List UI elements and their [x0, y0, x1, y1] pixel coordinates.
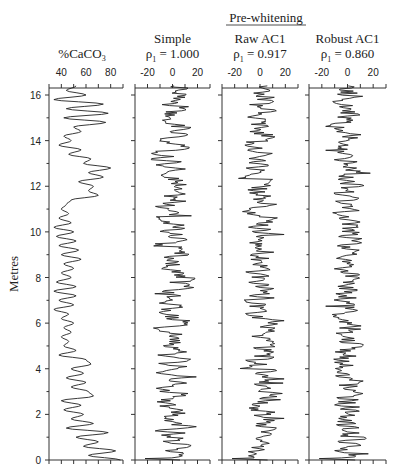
- panel-subtitle: ρ1 = 0.860: [321, 46, 375, 64]
- y-tick-label: 6: [35, 318, 41, 329]
- y-tick-label: 10: [30, 227, 42, 238]
- y-axis-label: Metres: [6, 256, 21, 292]
- y-tick-label: 2: [35, 409, 41, 420]
- group-title: Pre-whitening: [229, 10, 303, 25]
- panel-title: Simple: [154, 31, 191, 46]
- series-line: [319, 86, 370, 460]
- panel-subtitle: ρ1 = 1.000: [146, 46, 200, 64]
- y-tick-label: 12: [30, 181, 42, 192]
- chart-canvas: Pre-whiteningMetres0246810121416%CaCO340…: [0, 0, 403, 475]
- y-tick-label: 14: [30, 136, 42, 147]
- x-tick-label: 40: [56, 67, 68, 78]
- panel-4: Robust AC1ρ1 = 0.860-20020: [305, 31, 386, 464]
- panel-subtitle: ρ1 = 0.917: [233, 46, 287, 64]
- panel-title: %CaCO3: [58, 46, 105, 63]
- y-tick-label: 4: [35, 364, 41, 375]
- x-tick-label: -20: [315, 67, 330, 78]
- x-tick-label: 0: [345, 67, 351, 78]
- x-tick-label: 0: [170, 67, 176, 78]
- x-tick-label: 20: [280, 67, 292, 78]
- series-line: [54, 86, 121, 460]
- x-tick-label: 80: [105, 67, 117, 78]
- series-line: [232, 86, 284, 460]
- x-tick-label: 20: [192, 67, 204, 78]
- x-tick-label: -20: [140, 67, 155, 78]
- y-tick-label: 16: [30, 90, 42, 101]
- panel-3: Raw AC1ρ1 = 0.917-20020: [218, 31, 298, 464]
- y-tick-label: 8: [35, 273, 41, 284]
- x-tick-label: 20: [368, 67, 380, 78]
- panel-title: Raw AC1: [235, 31, 286, 46]
- panel-1: %CaCO3406080: [45, 46, 123, 464]
- panel-2: Simpleρ1 = 1.000-20020: [131, 31, 210, 464]
- panel-title: Robust AC1: [316, 31, 380, 46]
- x-tick-label: 60: [80, 67, 92, 78]
- x-tick-label: 0: [257, 67, 263, 78]
- x-tick-label: -20: [227, 67, 242, 78]
- series-line: [145, 86, 196, 460]
- y-tick-label: 0: [35, 455, 41, 466]
